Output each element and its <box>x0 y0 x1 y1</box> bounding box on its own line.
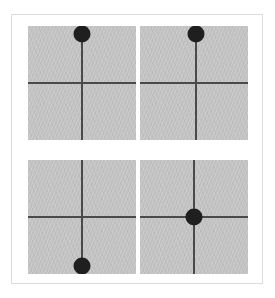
horizontal-axis-line <box>28 216 136 218</box>
figure-root <box>0 0 275 298</box>
panel-top-left[interactable] <box>28 26 136 140</box>
marker-dot[interactable] <box>74 26 91 42</box>
marker-dot[interactable] <box>186 209 203 226</box>
panel-bottom-right[interactable] <box>140 160 248 274</box>
horizontal-axis-line <box>140 82 248 84</box>
figure-frame-border <box>11 14 263 284</box>
panel-bottom-left[interactable] <box>28 160 136 274</box>
panel-top-right[interactable] <box>140 26 248 140</box>
marker-dot[interactable] <box>188 26 205 42</box>
panel-grid <box>28 26 248 274</box>
marker-dot[interactable] <box>74 258 91 274</box>
horizontal-axis-line <box>28 82 136 84</box>
